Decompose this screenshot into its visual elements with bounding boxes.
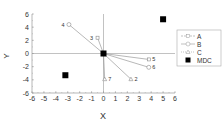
y-tick-label: 0 [25,50,29,57]
chart-canvas: -6-5-4-3-2-10123456-6-4-20246 354627 X Y… [0,0,224,121]
x-tick-label: -4 [53,95,59,102]
x-tick-label: 3 [137,95,141,102]
x-tick-label: 0 [102,95,106,102]
point-label: 6 [152,64,155,70]
legend: A B C MDC [177,30,221,66]
x-tick-label: -6 [29,95,35,102]
data-point-mdc [62,72,68,78]
legend-item-mdc: MDC [186,57,213,64]
point-label: 4 [61,22,64,28]
legend-label: MDC [197,57,212,64]
x-tick-label: 6 [173,95,177,102]
x-axis-label: X [100,111,106,121]
y-tick-label: 2 [25,37,29,44]
point-label: 3 [90,35,93,41]
x-tick-label: -3 [65,95,71,102]
point-label: 2 [134,76,137,82]
filled-square-marker-icon [186,58,191,63]
legend-label: B [197,41,201,48]
data-point-mdc [160,16,166,22]
data-point-a [96,36,99,39]
y-tick-label: -2 [23,63,29,70]
square-marker-icon [187,35,190,38]
point-label: 7 [108,76,111,82]
data-points: 354627 [61,16,166,82]
data-point-mdc [101,51,107,57]
scatter-chart: -6-5-4-3-2-10123456-6-4-20246 354627 X Y… [0,0,224,121]
series-lines [69,25,149,80]
x-tick-label: 1 [113,95,117,102]
x-tick-label: 5 [161,95,165,102]
x-tick-label: -1 [88,95,94,102]
x-tick-label: 4 [149,95,153,102]
y-tick-label: -4 [23,76,29,83]
x-tick-label: -5 [41,95,47,102]
legend-label: A [197,33,202,40]
x-tick-label: 2 [125,95,129,102]
data-point-a [147,58,150,61]
legend-label: C [197,49,202,56]
y-tick-label: 4 [25,24,29,31]
data-point-b [147,65,151,69]
circle-marker-icon [186,42,190,46]
point-label: 5 [152,56,155,62]
y-tick-label: -6 [23,90,29,97]
data-point-b [67,23,71,27]
y-tick-label: 6 [25,11,29,18]
y-axis-label: Y [2,53,11,59]
x-tick-label: -2 [77,95,83,102]
